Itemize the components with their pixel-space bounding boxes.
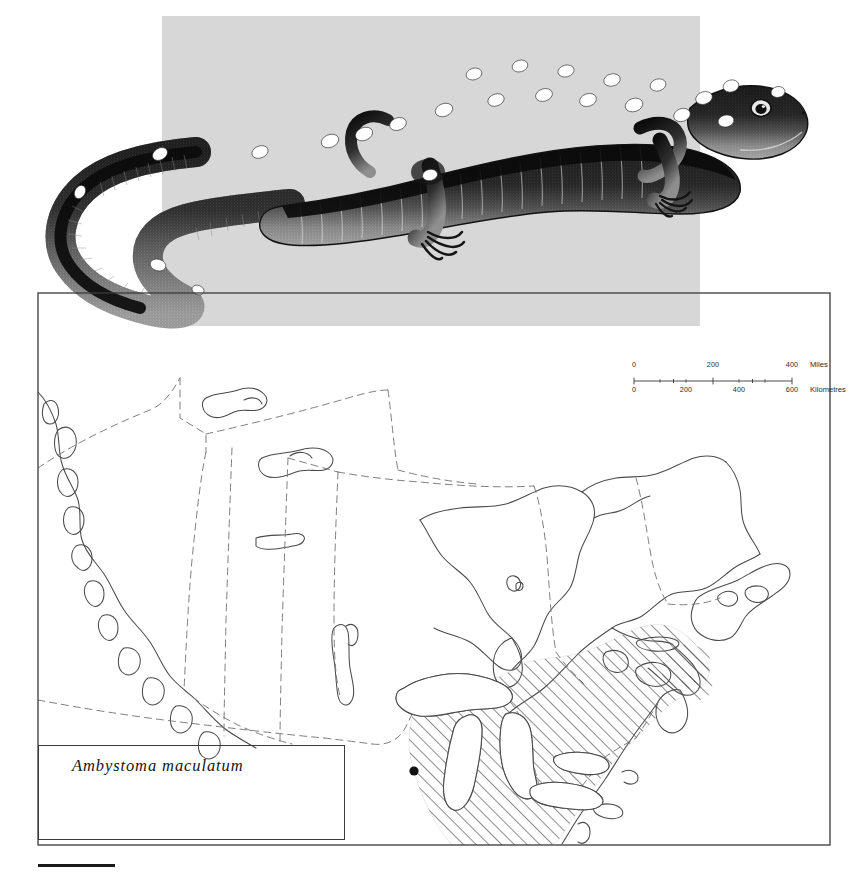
scale-km-tick-3: 600 xyxy=(786,385,799,394)
scale-miles-label: Miles xyxy=(810,360,828,369)
scale-km-tick-0: 0 xyxy=(632,385,636,394)
scale-miles-tick-1: 200 xyxy=(707,360,720,369)
scale-miles-tick-2: 400 xyxy=(786,360,799,369)
scale-miles-tick-0: 0 xyxy=(632,360,636,369)
scale-km-tick-2: 400 xyxy=(733,385,746,394)
species-name-box: Ambystoma maculatum xyxy=(38,745,345,840)
species-range-plate: 0 200 400 Miles 0 200 400 600 Kilometres… xyxy=(0,0,861,880)
scale-kilometres-label: Kilometres xyxy=(810,385,846,394)
species-name-label: Ambystoma maculatum xyxy=(72,756,244,776)
map-scale-bar: 0 200 400 Miles 0 200 400 600 Kilometres xyxy=(630,360,805,394)
bottom-rule xyxy=(38,864,115,867)
scale-km-tick-1: 200 xyxy=(680,385,693,394)
isolated-record-dot xyxy=(409,766,418,775)
